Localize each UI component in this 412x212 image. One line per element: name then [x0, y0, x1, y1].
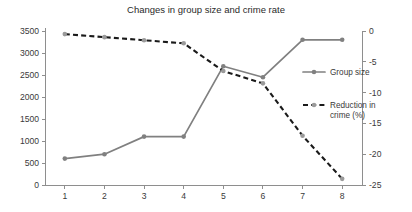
x-tick-label: 3 — [142, 191, 147, 201]
data-point-marker — [261, 81, 266, 86]
data-point-marker — [63, 156, 68, 161]
data-point-marker — [221, 69, 226, 74]
x-tick-label: 5 — [221, 191, 226, 201]
series-line-dashed — [65, 34, 342, 179]
x-tick-label: 6 — [261, 191, 266, 201]
line-chart: Changes in group size and crime rate 050… — [0, 0, 412, 212]
chart-container: Changes in group size and crime rate 050… — [0, 0, 412, 212]
right-tick-label: -25 — [369, 180, 382, 190]
right-tick-label: -15 — [369, 118, 382, 128]
data-point-marker — [261, 75, 266, 80]
data-point-marker — [300, 38, 305, 43]
data-point-marker — [102, 35, 107, 40]
chart-legend: Group sizeReduction incrime (%) — [303, 68, 376, 120]
series-layer — [63, 32, 345, 181]
data-point-marker — [221, 64, 226, 69]
legend-label: Reduction in — [330, 101, 376, 110]
x-axis: 12345678 — [45, 185, 362, 201]
left-tick-label: 3000 — [20, 48, 39, 58]
data-point-marker — [340, 38, 345, 43]
right-tick-label: -5 — [369, 57, 377, 67]
left-tick-label: 1000 — [20, 136, 39, 146]
data-point-marker — [63, 32, 68, 37]
data-point-marker — [340, 177, 345, 182]
x-tick-label: 1 — [62, 191, 67, 201]
chart-title: Changes in group size and crime rate — [127, 4, 285, 15]
x-tick-label: 4 — [181, 191, 186, 201]
left-tick-label: 1500 — [20, 114, 39, 124]
legend-label: crime (%) — [330, 111, 365, 120]
legend-label: Group size — [330, 68, 370, 77]
x-tick-label: 2 — [102, 191, 107, 201]
left-tick-label: 0 — [34, 180, 39, 190]
legend-swatch-marker — [312, 103, 317, 108]
left-tick-label: 2000 — [20, 92, 39, 102]
right-tick-label: 0 — [369, 26, 374, 36]
legend-swatch-marker — [312, 70, 317, 75]
x-tick-label: 8 — [340, 191, 345, 201]
left-tick-label: 3500 — [20, 26, 39, 36]
x-tick-label: 7 — [300, 191, 305, 201]
left-tick-label: 2500 — [20, 70, 39, 80]
data-point-marker — [142, 38, 147, 43]
left-tick-label: 500 — [25, 158, 40, 168]
data-point-marker — [181, 41, 186, 46]
right-tick-label: -20 — [369, 149, 382, 159]
data-point-marker — [102, 152, 107, 157]
right-tick-label: -10 — [369, 88, 382, 98]
data-point-marker — [300, 133, 305, 138]
data-point-marker — [181, 134, 186, 139]
left-y-axis: 0500100015002000250030003500 — [20, 26, 45, 190]
data-point-marker — [142, 134, 147, 139]
